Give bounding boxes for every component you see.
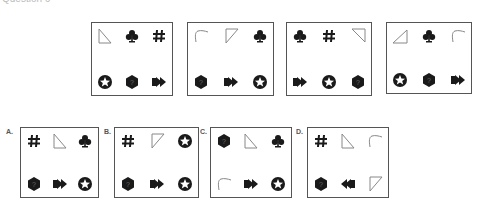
hexagon-question-icon: ? xyxy=(216,133,232,149)
hash-icon xyxy=(120,133,136,149)
hash-icon xyxy=(26,133,42,149)
arrow-right-icon xyxy=(52,176,68,192)
club-icon xyxy=(252,28,268,44)
svg-text:?: ? xyxy=(199,79,203,86)
svg-text:?: ? xyxy=(32,181,36,188)
arrow-left-icon xyxy=(340,176,356,192)
star-circle-icon xyxy=(270,176,286,192)
arrow-right-icon xyxy=(292,74,308,90)
arrow-right-icon xyxy=(151,74,167,90)
club-icon xyxy=(292,28,308,44)
club-icon xyxy=(124,28,140,44)
question-title: Question 6 xyxy=(2,0,50,4)
triangle-down-left-icon xyxy=(149,133,165,149)
star-circle-icon xyxy=(177,133,193,149)
hexagon-question-icon: ? xyxy=(193,74,209,90)
triangle-down-left-icon xyxy=(367,176,383,192)
sequence-figure-4: ? xyxy=(386,22,472,94)
curve-icon xyxy=(216,176,232,192)
arrow-right-icon xyxy=(223,74,239,90)
star-circle-icon xyxy=(77,176,93,192)
triangle-right-bottom-left-icon xyxy=(52,133,68,149)
club-icon xyxy=(77,133,93,149)
option-d-label: D. xyxy=(296,128,303,135)
star-circle-icon xyxy=(392,72,408,88)
svg-text:?: ? xyxy=(130,79,134,86)
hexagon-question-icon: ? xyxy=(124,74,140,90)
svg-text:?: ? xyxy=(319,181,323,188)
hexagon-question-icon: ? xyxy=(313,176,329,192)
triangle-right-bottom-left-icon xyxy=(243,133,259,149)
club-icon xyxy=(421,28,437,44)
star-circle-icon xyxy=(321,74,337,90)
arrow-right-icon xyxy=(450,72,466,88)
option-a[interactable]: ? xyxy=(20,127,99,198)
svg-text:?: ? xyxy=(427,77,431,84)
option-c-label: C. xyxy=(200,128,207,135)
club-icon xyxy=(270,133,286,149)
arrow-right-icon xyxy=(243,176,259,192)
triangle-top-right-icon xyxy=(350,28,366,44)
curve-icon xyxy=(193,28,209,44)
triangle-right-bottom-left-icon xyxy=(340,133,356,149)
star-circle-icon xyxy=(177,176,193,192)
sequence-figure-1: ? xyxy=(91,22,173,96)
hash-icon xyxy=(313,133,329,149)
svg-text:?: ? xyxy=(222,138,226,145)
hexagon-question-icon: ? xyxy=(120,176,136,192)
option-c[interactable]: ? xyxy=(210,127,292,198)
svg-text:?: ? xyxy=(356,79,360,86)
triangle-right-bottom-left-icon xyxy=(97,28,113,44)
curve-icon xyxy=(450,28,466,44)
sequence-figure-2: ? xyxy=(187,22,274,96)
triangle-down-left-icon xyxy=(223,28,239,44)
option-d[interactable]: ? xyxy=(307,127,389,198)
arrow-right-icon xyxy=(149,176,165,192)
option-b-label: B. xyxy=(104,128,111,135)
star-circle-icon xyxy=(97,74,113,90)
option-b[interactable]: ? xyxy=(114,127,199,198)
hexagon-question-icon: ? xyxy=(421,72,437,88)
hash-icon xyxy=(151,28,167,44)
curve-icon xyxy=(367,133,383,149)
star-circle-icon xyxy=(252,74,268,90)
triangle-up-right-icon xyxy=(392,28,408,44)
svg-text:?: ? xyxy=(126,181,130,188)
option-a-label: A. xyxy=(6,128,13,135)
hash-icon xyxy=(321,28,337,44)
hexagon-question-icon: ? xyxy=(26,176,42,192)
hexagon-question-icon: ? xyxy=(350,74,366,90)
sequence-figure-3: ? xyxy=(286,22,372,96)
